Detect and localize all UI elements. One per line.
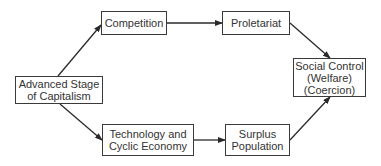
node-label-line: Technology and [109,128,186,140]
flowchart-diagram: Advanced Stage of Capitalism Competition… [0,0,381,166]
node-label-line: Population [232,140,284,152]
node-label-line: Surplus [239,128,276,140]
node-label-line: Cyclic Economy [109,140,187,152]
node-technology-and-cyclic-economy: Technology and Cyclic Economy [102,124,194,156]
node-label-line: Social Control [295,60,363,72]
node-social-control: Social Control (Welfare) (Coercion) [293,58,366,97]
edge-advanced-to-technology [60,104,102,140]
node-label-line: Proletariat [231,17,281,29]
node-advanced-stage-of-capitalism: Advanced Stage of Capitalism [15,76,103,104]
edge-proletariat-to-social-control [290,23,330,58]
node-label-line: (Welfare) [307,72,352,84]
node-label-line: (Coercion) [304,84,355,96]
node-competition: Competition [101,11,167,35]
node-surplus-population: Surplus Population [225,124,290,156]
node-label-line: Advanced Stage [19,78,100,90]
node-proletariat: Proletariat [222,11,290,35]
node-label-line: of Capitalism [27,90,91,102]
edge-surplus-to-social-control [290,97,330,140]
node-label-line: Competition [105,17,164,29]
edge-advanced-to-competition [58,25,101,76]
